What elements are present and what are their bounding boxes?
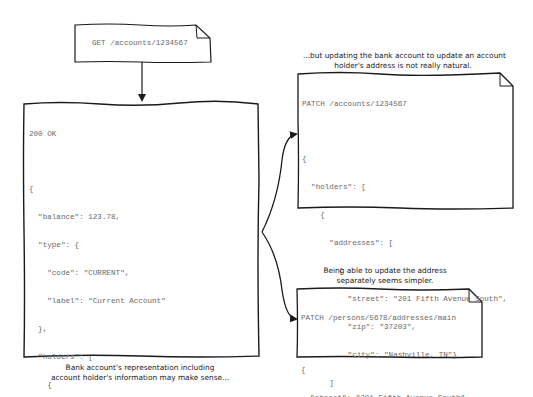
patch-account-body-line: "addresses": [ bbox=[302, 239, 507, 248]
spacer bbox=[29, 157, 252, 166]
response-body-line: "code": "CURRENT", bbox=[29, 269, 252, 278]
response-body-line: "label": "Current Account" bbox=[29, 297, 252, 306]
patch-account-body-line: { bbox=[302, 155, 507, 164]
patch-account-caption-line: holder's address is not really natural. bbox=[303, 61, 503, 71]
response-caption-line: account holder's information may make se… bbox=[40, 373, 240, 383]
response-body-line: }, bbox=[29, 325, 252, 334]
patch-address-caption-line: separately seems simpler. bbox=[285, 276, 485, 286]
response-caption: Bank account's representation including … bbox=[40, 363, 240, 383]
patch-address-caption: Being able to update the address separat… bbox=[285, 266, 485, 286]
response-body-line: { bbox=[29, 185, 252, 194]
diagram-canvas: GET /accounts/1234567 200 OK { "balance"… bbox=[0, 0, 533, 397]
patch-address-body-line: { bbox=[301, 366, 470, 375]
spacer bbox=[302, 127, 507, 136]
patch-address-request-line: PATCH /persons/5678/addresses/main bbox=[301, 314, 470, 323]
response-content: 200 OK { "balance": 123.78, "type": { "c… bbox=[29, 111, 252, 397]
spacer bbox=[301, 341, 470, 347]
response-to-patch-account-arrow bbox=[262, 134, 296, 232]
patch-account-caption: ...but updating the bank account to upda… bbox=[303, 51, 503, 71]
response-body-line: "type": { bbox=[29, 241, 252, 250]
get-request-text: GET /accounts/1234567 bbox=[92, 39, 188, 48]
patch-account-body-line: { bbox=[302, 211, 507, 220]
response-body-line: "holders": [ bbox=[29, 353, 252, 362]
patch-account-caption-line: ...but updating the bank account to upda… bbox=[303, 51, 503, 61]
response-body-line: "balance": 123.78, bbox=[29, 213, 252, 222]
patch-account-body-line: "holders": [ bbox=[302, 183, 507, 192]
response-status: 200 OK bbox=[29, 130, 252, 139]
patch-address-caption-line: Being able to update the address bbox=[285, 266, 485, 276]
patch-address-content: PATCH /persons/5678/addresses/main { "st… bbox=[301, 295, 470, 397]
patch-account-request-line: PATCH /accounts/1234567 bbox=[302, 100, 507, 109]
response-caption-line: Bank account's representation including bbox=[40, 363, 240, 373]
